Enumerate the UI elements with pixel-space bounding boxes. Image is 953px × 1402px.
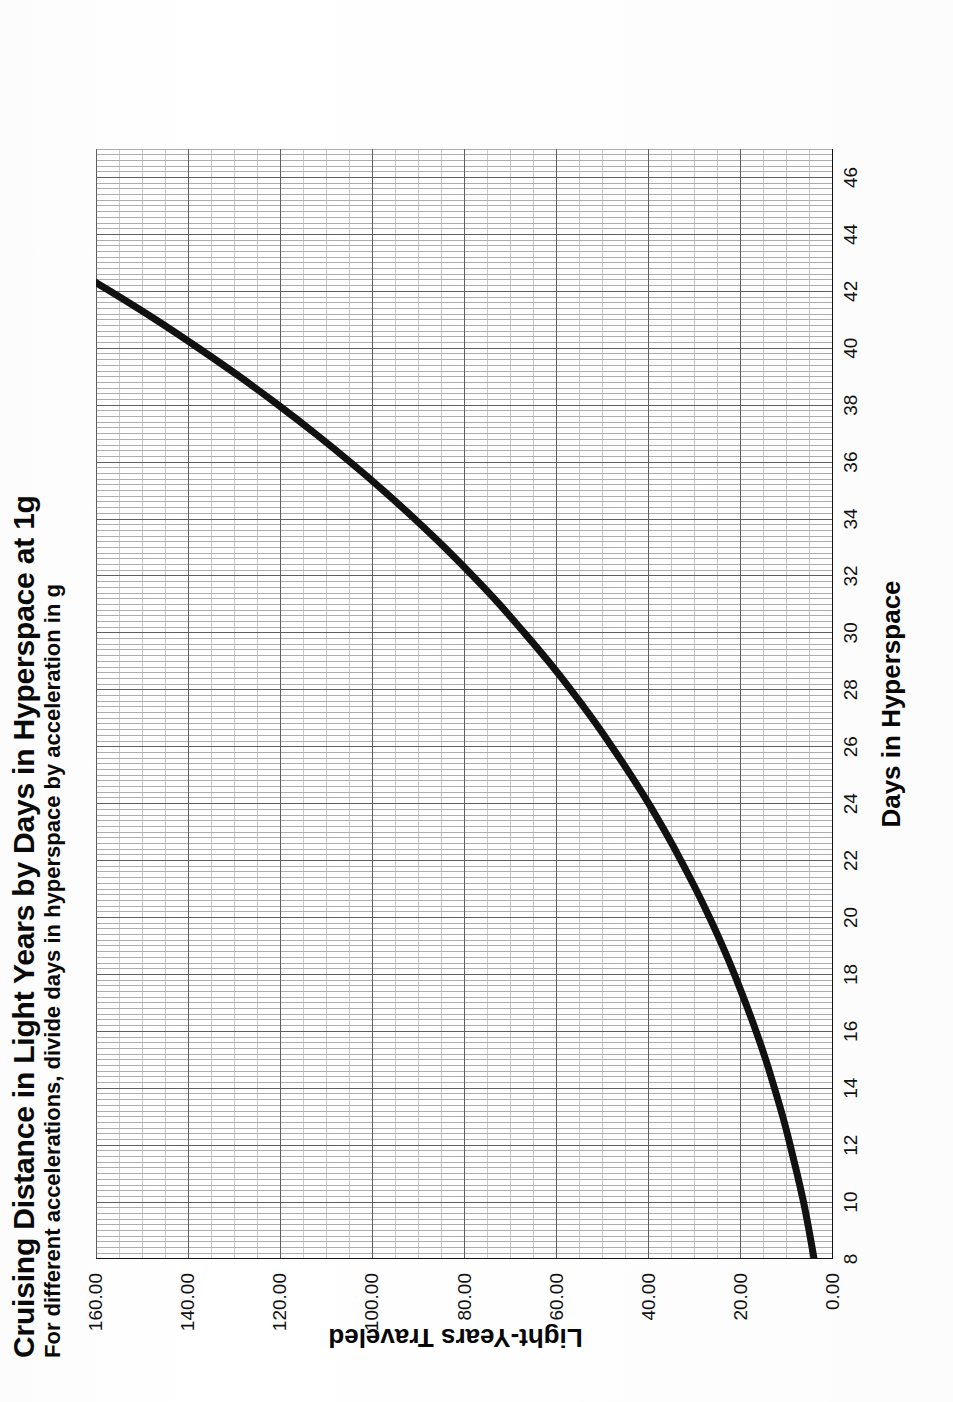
plot-area	[96, 149, 833, 1259]
x-tick-label: 20	[840, 907, 862, 928]
page-title: Cruising Distance in Light Years by Days…	[8, 18, 40, 1358]
y-tick-label: 80.00	[454, 1273, 476, 1321]
x-tick-label: 32	[840, 565, 862, 586]
x-axis-title: Days in Hyperspace	[876, 149, 907, 1259]
x-tick-label: 24	[840, 793, 862, 814]
x-tick-label: 22	[840, 850, 862, 871]
x-tick-label: 38	[840, 395, 862, 416]
x-tick-label: 16	[840, 1021, 862, 1042]
x-tick-label: 44	[840, 224, 862, 245]
x-tick-label: 40	[840, 338, 862, 359]
x-tick-label: 42	[840, 281, 862, 302]
y-tick-label: 40.00	[638, 1273, 660, 1321]
x-tick-label: 18	[840, 964, 862, 985]
x-tick-label: 46	[840, 167, 862, 188]
y-tick-label: 60.00	[546, 1273, 568, 1321]
y-tick-label: 20.00	[730, 1273, 752, 1321]
x-tick-label: 14	[840, 1078, 862, 1099]
x-tick-label: 30	[840, 622, 862, 643]
chart-subtitle: For different accelerations, divide days…	[41, 18, 65, 1358]
y-tick-label: 0.00	[822, 1273, 844, 1310]
chart-canvas: Cruising Distance in Light Years by Days…	[0, 0, 953, 1402]
x-tick-label: 36	[840, 452, 862, 473]
chart-title-block: Cruising Distance in Light Years by Days…	[8, 18, 65, 1358]
x-tick-label: 8	[840, 1254, 862, 1265]
major-gridlines	[96, 149, 833, 1259]
x-tick-label: 10	[840, 1192, 862, 1213]
x-axis-tick-labels: 810121416182022242628303234363840424446	[836, 149, 870, 1259]
x-tick-label: 12	[840, 1135, 862, 1156]
plot-svg	[96, 149, 833, 1259]
x-tick-label: 34	[840, 508, 862, 529]
x-tick-label: 26	[840, 736, 862, 757]
x-tick-label: 28	[840, 679, 862, 700]
y-axis-title: Light-Years Traveled	[86, 1322, 826, 1353]
rotated-chart-page: Cruising Distance in Light Years by Days…	[0, 0, 953, 1402]
